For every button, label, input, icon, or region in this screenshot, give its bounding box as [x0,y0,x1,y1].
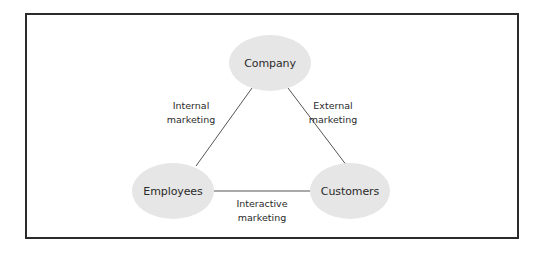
node-customers: Customers [310,163,390,219]
edge-label-external: External marketing [305,99,361,127]
node-employees-label: Employees [143,185,202,198]
edge-label-internal-line2: marketing [163,113,219,127]
edge-label-internal: Internal marketing [163,99,219,127]
node-employees: Employees [132,163,214,219]
edge-label-interactive-line1: Interactive [232,197,292,211]
node-customers-label: Customers [321,185,379,198]
node-company: Company [229,35,311,91]
edge-label-external-line2: marketing [305,113,361,127]
edge-label-interactive-line2: marketing [232,211,292,225]
edge-label-interactive: Interactive marketing [232,197,292,225]
node-company-label: Company [244,57,296,70]
edge-label-internal-line1: Internal [163,99,219,113]
edge-label-external-line1: External [305,99,361,113]
